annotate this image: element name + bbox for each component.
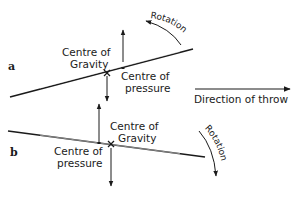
centre-of-pressure-label-a: Centre of pressure <box>121 70 173 94</box>
centre-of-pressure-label-b: Centre of pressure <box>54 145 106 169</box>
javelin-b <box>8 131 205 157</box>
panel-a-label: a <box>8 60 15 73</box>
centre-of-pressure-marker-a <box>122 67 125 69</box>
panel-b: b Centre of Gravity Centre of pressure <box>8 104 229 186</box>
direction-of-throw: Direction of throw <box>194 89 290 105</box>
centre-of-pressure-marker-b <box>98 142 101 144</box>
rotation-label-a: Rotation <box>150 10 189 34</box>
javelin-flight-diagram: a Centre of Gravity Centre of pressure <box>0 0 299 204</box>
centre-of-gravity-label-b: Centre of Gravity <box>110 120 162 144</box>
panel-b-label: b <box>10 146 18 159</box>
direction-of-throw-label: Direction of throw <box>194 93 289 105</box>
centre-of-gravity-label-a: Centre of Gravity <box>62 46 114 70</box>
rotation-indicator-b: Rotation <box>199 123 229 176</box>
rotation-indicator-a: Rotation <box>146 10 189 45</box>
panel-a: a Centre of Gravity Centre of pressure <box>8 10 193 101</box>
